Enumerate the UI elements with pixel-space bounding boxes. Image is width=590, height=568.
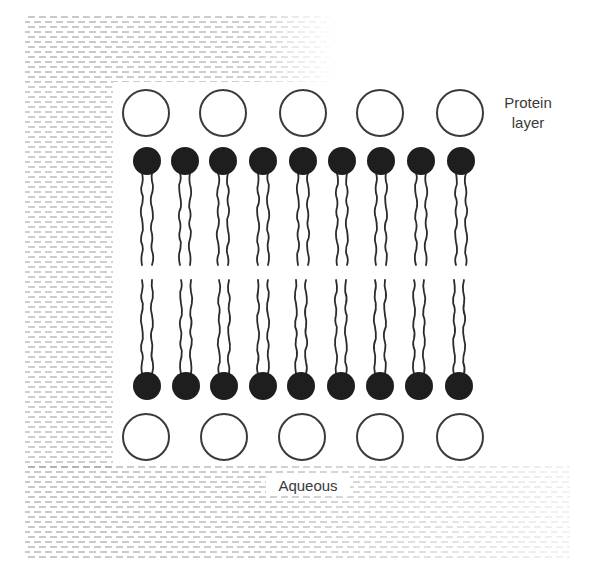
phospholipid [327,280,355,400]
fatty-acid-tail [141,280,143,374]
polar-head [249,147,277,175]
fatty-acid-tail [384,280,386,374]
protein-layer-label: Protein layer [493,93,563,133]
polar-head [249,372,277,400]
phospholipid [133,147,161,265]
fatty-acid-tail [151,173,154,265]
fatty-acid-tail [217,173,220,265]
fatty-acid-tail [374,280,376,374]
polar-head [367,147,395,175]
fatty-acid-tail [267,173,269,265]
polar-head [287,372,315,400]
fatty-acid-tail [189,173,191,265]
polar-head [133,147,161,175]
polar-head [210,372,238,400]
aqueous-label: Aqueous [266,476,350,496]
fatty-acid-tail [190,280,192,374]
polar-head [407,147,435,175]
fatty-acid-tail [257,173,259,265]
fatty-acid-tail [346,173,348,265]
fatty-acid-tail [335,280,337,374]
polar-head [289,147,317,175]
protein-molecule [201,414,247,460]
protein-label-line1: Protein [493,93,563,113]
phospholipid [445,280,473,400]
fatty-acid-tail [267,280,269,374]
phospholipid [367,147,395,265]
phospholipid [289,147,317,265]
phospholipid [209,147,237,265]
phospholipid [210,280,238,400]
fatty-acid-tail [465,173,467,265]
fatty-acid-tail [345,280,347,374]
fatty-acid-tail [228,280,230,374]
fatty-acid-tail [463,280,465,374]
fatty-acid-tail [179,173,181,265]
phospholipid [328,147,356,265]
aqueous-left-band [25,82,113,468]
phospholipid [133,280,161,400]
phospholipid [405,280,433,400]
protein-molecule [279,414,325,460]
fatty-acid-tail [336,173,338,265]
fatty-acid-tail [151,280,154,374]
fatty-acid-tail [453,280,455,374]
fatty-acid-tail [415,173,417,265]
protein-layer-bottom [123,414,483,460]
phospholipid [407,147,435,265]
fatty-acid-tail [141,173,143,265]
protein-molecule [200,90,246,136]
protein-molecule [357,414,403,460]
fatty-acid-tail [295,280,297,374]
protein-molecule [437,414,483,460]
phospholipid [171,147,199,265]
fatty-acid-tail [455,173,457,265]
protein-molecule [357,90,403,136]
fatty-acid-tail [297,173,299,265]
phospholipid [249,147,277,265]
aqueous-top-band [25,16,335,82]
fatty-acid-tail [425,173,428,265]
phospholipid [249,280,277,400]
polar-head [209,147,237,175]
phospholipid [287,280,315,400]
phospholipid [366,280,394,400]
fatty-acid-tail [305,280,307,374]
fatty-acid-tail [413,280,415,374]
protein-layer-top [123,90,483,136]
fatty-acid-tail [218,280,221,374]
fatty-acid-tail [423,280,426,374]
phospholipid [172,280,200,400]
lipid-layer-top [133,147,475,265]
protein-molecule [280,90,326,136]
protein-molecule [123,90,169,136]
fatty-acid-tail [385,173,387,265]
polar-head [405,372,433,400]
polar-head [172,372,200,400]
polar-head [328,147,356,175]
lipid-layer-bottom [133,280,473,400]
polar-head [327,372,355,400]
fatty-acid-tail [257,280,259,374]
polar-head [171,147,199,175]
fatty-acid-tail [307,173,309,265]
fatty-acid-tail [180,280,182,374]
polar-head [447,147,475,175]
fatty-acid-tail [227,173,229,265]
phospholipid [447,147,475,265]
protein-molecule [123,414,169,460]
protein-molecule [437,90,483,136]
polar-head [133,372,161,400]
fatty-acid-tail [375,173,377,265]
polar-head [366,372,394,400]
protein-label-line2: layer [493,113,563,133]
polar-head [445,372,473,400]
